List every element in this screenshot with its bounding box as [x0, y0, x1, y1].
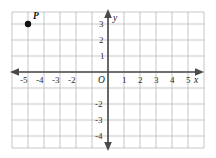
origin-label: O: [98, 76, 105, 86]
x-axis-name-label: x: [194, 76, 198, 86]
x-tick-label-pos4: 4: [170, 76, 175, 85]
x-tick-label-pos3: 3: [154, 76, 159, 85]
x-tick-label-pos5: 5: [186, 76, 191, 85]
x-axis-arrow-left: [10, 68, 19, 76]
y-axis-name-label: y: [113, 14, 117, 24]
x-tick-label-pos1: 1: [122, 76, 127, 85]
y-tick-label-pos2: 2: [99, 36, 104, 45]
data-point-p: [25, 21, 31, 27]
x-tick-label-neg5: -5: [20, 76, 28, 85]
x-tick-label-neg4: -4: [36, 76, 44, 85]
y-axis-arrow-down: [104, 142, 112, 151]
y-axis-arrow-up: [104, 9, 112, 18]
y-tick-label-pos3: 3: [99, 20, 104, 29]
data-point-p-label: P: [33, 12, 39, 22]
coordinate-plane-figure: -5 -4 -3 -2 1 2 3 4 5 3 2 1 -2 -3 -4 O x…: [0, 0, 216, 158]
y-tick-label-neg4: -4: [95, 132, 103, 141]
y-tick-label-neg2: -2: [95, 100, 103, 109]
y-tick-label-neg3: -3: [95, 116, 103, 125]
y-tick-label-pos1: 1: [100, 52, 105, 61]
x-tick-label-pos2: 2: [138, 76, 143, 85]
x-tick-label-neg3: -3: [52, 76, 60, 85]
x-tick-label-neg2: -2: [68, 76, 76, 85]
coordinate-grid-svg: [0, 0, 216, 158]
